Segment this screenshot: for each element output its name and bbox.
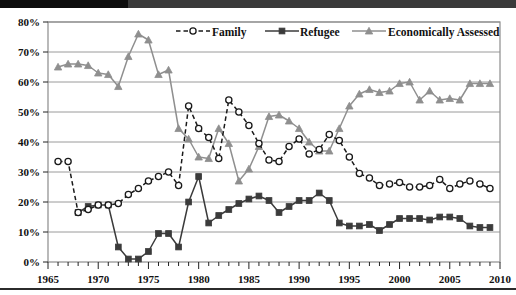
data-point — [236, 109, 242, 115]
x-tick-label: 2000 — [389, 273, 412, 285]
data-point — [286, 204, 292, 210]
data-point — [146, 249, 152, 255]
data-point — [417, 184, 423, 190]
x-tick-label: 1965 — [37, 273, 60, 285]
y-tick-label: 30% — [18, 166, 40, 178]
data-point — [136, 256, 142, 262]
x-tick-label: 1975 — [137, 273, 160, 285]
legend-label: Family — [212, 26, 247, 39]
data-point — [145, 178, 151, 184]
x-axis-labels: 1965197019751980198519901995200020052010 — [37, 273, 512, 285]
data-point — [477, 181, 483, 187]
legend-marker — [190, 28, 196, 34]
data-point — [326, 131, 332, 137]
data-point — [65, 158, 71, 164]
data-point — [155, 71, 162, 78]
data-point — [115, 200, 121, 206]
x-tick-label: 2005 — [439, 273, 462, 285]
data-point — [165, 169, 171, 175]
y-axis-labels: 0%10%20%30%40%50%60%70%80% — [18, 16, 48, 268]
data-point — [447, 214, 453, 220]
data-point — [206, 220, 212, 226]
data-point — [206, 134, 212, 140]
data-point — [336, 220, 342, 226]
data-point — [196, 125, 202, 131]
x-axis-ticks — [48, 262, 500, 269]
data-point — [246, 122, 252, 128]
data-point — [236, 201, 242, 207]
data-point — [427, 217, 433, 223]
x-tick-label: 1980 — [188, 273, 211, 285]
data-point — [285, 117, 292, 124]
data-point — [367, 222, 373, 228]
data-point — [356, 90, 363, 97]
series-family — [55, 97, 493, 216]
data-point — [155, 173, 161, 179]
data-point — [336, 137, 342, 143]
legend-item[interactable]: Family — [176, 26, 247, 39]
data-point — [336, 125, 343, 132]
data-point — [115, 244, 121, 250]
data-point — [286, 143, 292, 149]
data-point — [186, 199, 192, 205]
x-tick-label: 1990 — [288, 273, 311, 285]
x-tick-label: 1985 — [238, 273, 261, 285]
data-point — [437, 214, 443, 220]
x-tick-label: 1995 — [338, 273, 361, 285]
data-point — [457, 216, 463, 222]
data-point — [105, 202, 111, 208]
data-point — [396, 179, 402, 185]
data-point — [487, 185, 493, 191]
data-point — [387, 222, 393, 228]
data-point — [276, 210, 282, 216]
data-point — [85, 206, 91, 212]
data-point — [457, 181, 463, 187]
data-point — [226, 207, 232, 213]
bottom-divider — [0, 288, 516, 290]
data-point — [276, 158, 282, 164]
data-point — [156, 231, 162, 237]
data-point — [397, 216, 403, 222]
data-point — [487, 225, 493, 231]
data-point — [246, 196, 252, 202]
y-tick-label: 70% — [18, 46, 40, 58]
line-chart: 0%10%20%30%40%50%60%70%80%19651970197519… — [0, 0, 516, 295]
y-tick-label: 40% — [18, 136, 40, 148]
legend-item[interactable]: Economically Assessed — [352, 26, 500, 39]
data-point — [346, 223, 352, 229]
data-point — [165, 66, 172, 73]
y-tick-label: 60% — [18, 76, 40, 88]
data-point — [467, 223, 473, 229]
data-point — [196, 174, 202, 180]
data-point — [296, 136, 302, 142]
data-point — [407, 184, 413, 190]
x-tick-label: 2010 — [489, 273, 512, 285]
data-point — [377, 228, 383, 234]
y-tick-label: 80% — [18, 16, 40, 28]
y-tick-label: 20% — [18, 196, 40, 208]
data-point — [186, 103, 192, 109]
data-point — [266, 157, 272, 163]
y-tick-label: 50% — [18, 106, 40, 118]
y-tick-label: 0% — [24, 256, 41, 268]
legend-marker — [279, 28, 285, 34]
data-point — [426, 87, 433, 94]
series-line — [58, 100, 490, 213]
series-line — [58, 34, 490, 181]
data-point — [125, 191, 131, 197]
legend-label: Refugee — [300, 26, 340, 39]
data-point — [437, 176, 443, 182]
data-point — [175, 125, 182, 132]
data-point — [467, 178, 473, 184]
data-point — [166, 231, 172, 237]
data-point — [296, 198, 302, 204]
legend-item[interactable]: Refugee — [265, 26, 340, 39]
data-point — [386, 181, 392, 187]
data-point — [55, 158, 61, 164]
data-point — [316, 190, 322, 196]
data-point — [215, 125, 222, 132]
data-point — [306, 151, 312, 157]
x-tick-label: 1970 — [87, 273, 110, 285]
gridlines — [48, 22, 500, 232]
data-point — [75, 209, 81, 215]
